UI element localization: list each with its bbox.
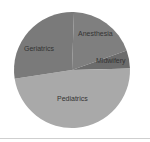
slice-label-midwifery: Midwifery [96, 57, 126, 65]
bottom-divider [0, 138, 150, 139]
pie-chart-svg: Anesthesia Midwifery Pediatrics Geriatri… [0, 0, 150, 138]
slice-label-anesthesia: Anesthesia [78, 30, 113, 37]
pie-chart: Anesthesia Midwifery Pediatrics Geriatri… [0, 0, 150, 138]
slice-label-geriatrics: Geriatrics [24, 45, 54, 52]
slice-label-pediatrics: Pediatrics [57, 95, 88, 102]
